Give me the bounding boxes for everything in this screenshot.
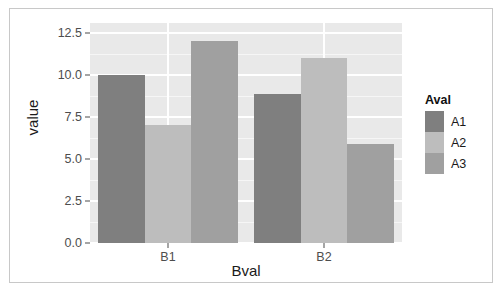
- legend-title: Aval: [425, 93, 495, 107]
- legend-label: A1: [451, 115, 466, 129]
- y-tick-label: 5.0: [65, 152, 82, 166]
- y-tick-label: 12.5: [58, 26, 82, 40]
- legend-item-A3: A3: [425, 153, 495, 174]
- y-axis-tick-labels: 0.02.55.07.510.012.5: [38, 23, 90, 243]
- gridline-minor: [90, 54, 402, 55]
- bar-B1-A1: [98, 75, 145, 243]
- legend-label: A3: [451, 157, 466, 171]
- x-tick-mark: [168, 243, 169, 248]
- bar-B2-A3: [347, 144, 394, 243]
- x-axis-title: Bval: [90, 262, 402, 279]
- x-tick-mark: [324, 243, 325, 248]
- chart-frame: value 0.02.55.07.510.012.5 B1B2 Bval Ava…: [9, 8, 493, 283]
- legend-key-A1: [425, 111, 444, 132]
- legend-key-A3: [425, 153, 444, 174]
- bar-B2-A1: [254, 94, 301, 243]
- y-tick-label: 10.0: [58, 68, 82, 82]
- legend-items: A1A2A3: [425, 111, 495, 174]
- bar-B1-A3: [191, 41, 238, 243]
- y-tick-label: 0.0: [65, 236, 82, 250]
- legend-label: A2: [451, 136, 466, 150]
- legend-item-A1: A1: [425, 111, 495, 132]
- gridline-major: [90, 32, 402, 34]
- legend-key-A2: [425, 132, 444, 153]
- plot-panel: [90, 23, 402, 243]
- bar-B1-A2: [145, 125, 192, 243]
- y-tick-label: 2.5: [65, 194, 82, 208]
- legend: Aval A1A2A3: [425, 93, 495, 174]
- legend-item-A2: A2: [425, 132, 495, 153]
- y-tick-label: 7.5: [65, 110, 82, 124]
- bar-B2-A2: [301, 58, 348, 243]
